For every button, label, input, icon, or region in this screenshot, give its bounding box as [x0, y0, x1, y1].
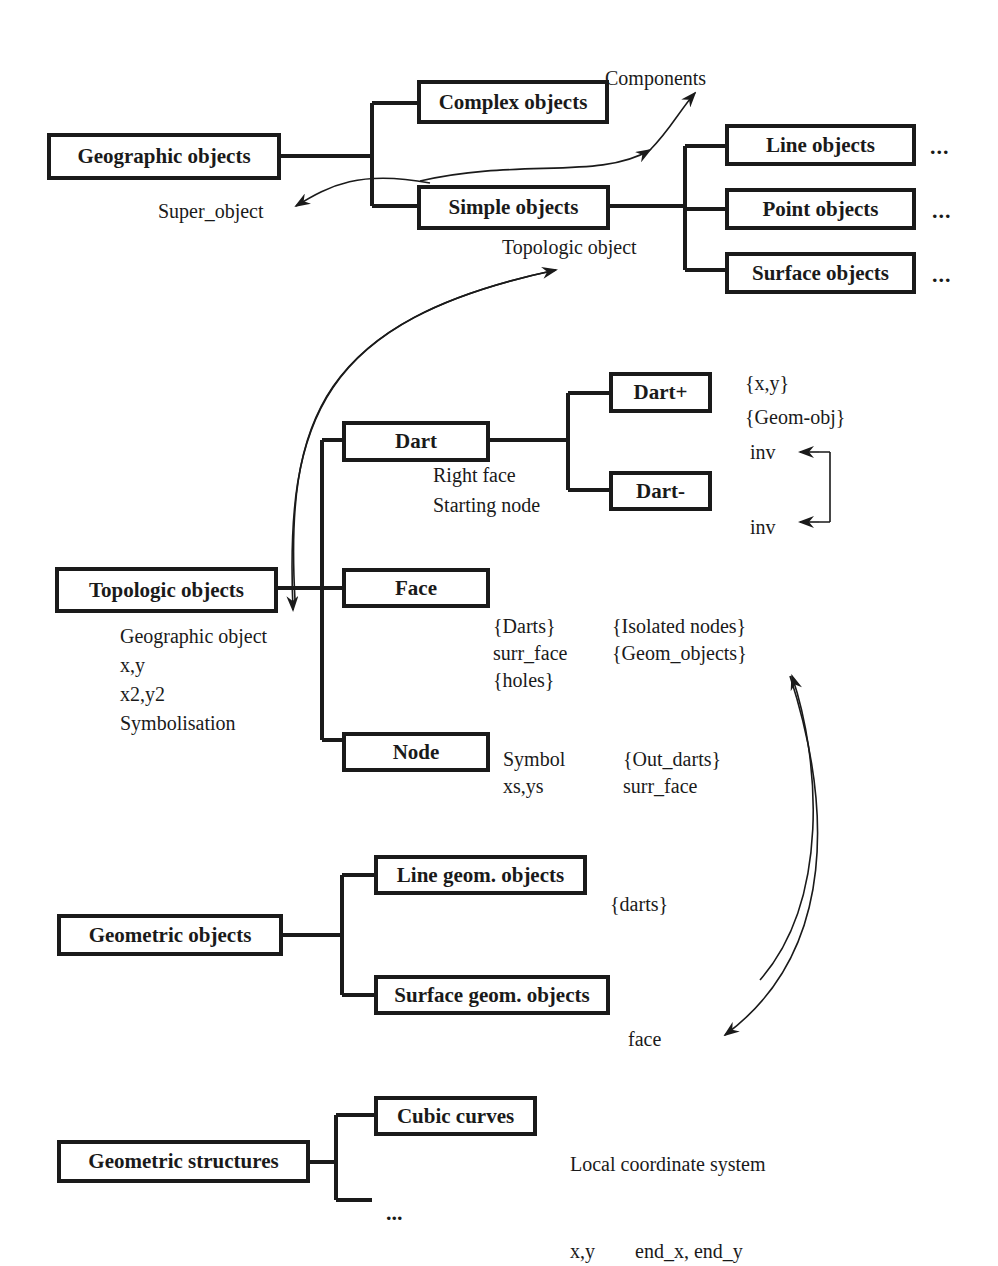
simple-objects-box: Simple objects	[417, 185, 610, 230]
attr-darts: {Darts}	[493, 613, 567, 640]
attr-geographic-object: Geographic object	[120, 622, 267, 651]
geometric-structures-box: Geometric structures	[57, 1140, 310, 1183]
dart-attributes: Right face Starting node	[433, 460, 540, 520]
dart-plus-attributes: {x,y} {Geom-obj}	[745, 366, 845, 434]
attr-symbol: Symbol	[503, 746, 565, 773]
dart-minus-box: Dart-	[609, 471, 712, 511]
topologic-objects-box: Topologic objects	[55, 567, 278, 613]
attr-right-face: Right face	[433, 460, 540, 490]
dart-plus-box: Dart+	[609, 372, 712, 413]
face-label: face	[628, 1024, 661, 1054]
structures-ellipsis: ...	[386, 1198, 403, 1228]
attr-xy-set: {x,y}	[745, 366, 845, 400]
topologic-object-label: Topologic object	[502, 232, 637, 262]
attr-geom-objects: {Geom_objects}	[612, 640, 747, 667]
node-attributes-col1: Symbol xs,ys	[503, 746, 565, 800]
face-attributes-col2: {Isolated nodes} {Geom_objects}	[612, 613, 747, 667]
attr-xs-ys: xs,ys	[503, 773, 565, 800]
components-label: Components	[605, 63, 706, 93]
attr-node-surr-face: surr_face	[623, 773, 721, 800]
cubic-curves-attributes: Local coordinate system x,y end_x, end_y…	[570, 1092, 766, 1266]
attr-surr-face: surr_face	[493, 640, 567, 667]
super-object-label: Super_object	[158, 196, 264, 226]
surface-geom-objects-box: Surface geom. objects	[374, 975, 610, 1015]
surface-objects-box: Surface objects	[725, 252, 916, 294]
node-attributes-col2: {Out_darts} surr_face	[623, 746, 721, 800]
attr-holes: {holes}	[493, 667, 567, 694]
dart-box: Dart	[342, 421, 490, 462]
attr-starting-node: Starting node	[433, 490, 540, 520]
line-geom-objects-box: Line geom. objects	[374, 855, 587, 895]
geographic-objects-box: Geographic objects	[47, 133, 281, 180]
cubic-curves-box: Cubic curves	[374, 1096, 537, 1136]
topologic-root-attributes: Geographic object x,y x2,y2 Symbolisatio…	[120, 622, 267, 738]
face-attributes-col1: {Darts} surr_face {holes}	[493, 613, 567, 694]
attr-geom-obj: {Geom-obj}	[745, 400, 845, 434]
attr-out-darts: {Out_darts}	[623, 746, 721, 773]
surface-objects-ellipsis: ...	[932, 262, 952, 288]
inv-top-label: inv	[750, 437, 776, 467]
line-objects-ellipsis: ...	[930, 134, 950, 160]
geometric-objects-box: Geometric objects	[57, 914, 283, 956]
attr-xy: x,y	[120, 651, 267, 680]
attr-symbolisation: Symbolisation	[120, 709, 267, 738]
point-objects-box: Point objects	[725, 188, 916, 230]
face-box: Face	[342, 568, 490, 608]
line-geom-attributes: {darts}	[610, 889, 668, 919]
line-objects-box: Line objects	[725, 124, 916, 166]
node-box: Node	[342, 732, 490, 772]
attr-xy-end: x,y end_x, end_y	[570, 1237, 766, 1266]
inv-bottom-label: inv	[750, 512, 776, 542]
attr-x2y2: x2,y2	[120, 680, 267, 709]
attr-isolated-nodes: {Isolated nodes}	[612, 613, 747, 640]
complex-objects-box: Complex objects	[417, 80, 609, 124]
attr-local-coordinate-system: Local coordinate system	[570, 1150, 766, 1179]
point-objects-ellipsis: ...	[932, 198, 952, 224]
